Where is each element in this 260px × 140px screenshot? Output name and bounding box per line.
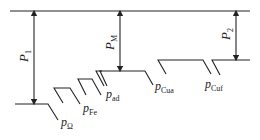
pm-level-line [96,71,153,86]
label-p2: P2 [218,28,235,41]
label-p-ad: pad [105,87,120,103]
svg-text:P1: P1 [16,50,33,63]
svg-text:PM: PM [102,35,119,51]
output-level-line [212,60,250,75]
label-p1: P1 [16,50,33,63]
label-p-omega: pΩ [60,115,73,131]
label-p-fe: pFe [82,101,97,117]
label-p-cuf: pCuf [204,77,223,93]
label-pm: PM [102,35,119,51]
svg-text:P2: P2 [218,28,235,41]
step-3 [100,71,107,86]
step-2 [78,79,101,95]
step-1 [54,88,80,104]
input-level-line [15,104,58,120]
pcua-level-line [158,60,211,74]
power-flow-diagram: P1 PM P2 pΩ pFe pad pCua pCuf [0,0,260,140]
label-p-cua: pCua [154,79,174,95]
